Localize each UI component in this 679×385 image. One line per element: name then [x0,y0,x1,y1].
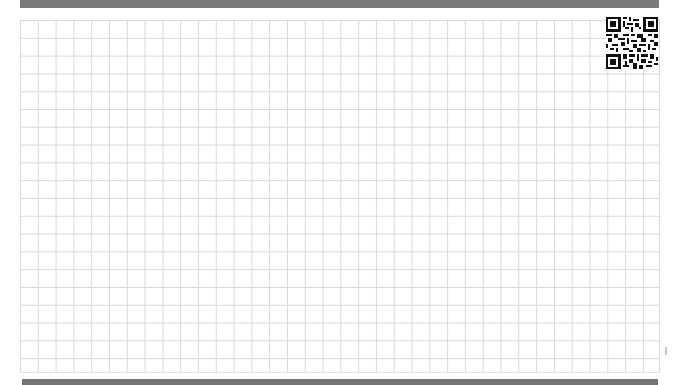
bottom-footer-bar [22,379,658,385]
graph-paper-grid [20,20,660,373]
top-header-bar [20,0,659,8]
qr-code-icon [606,16,658,70]
qr-code[interactable] [606,16,658,70]
edge-mark [665,347,667,355]
